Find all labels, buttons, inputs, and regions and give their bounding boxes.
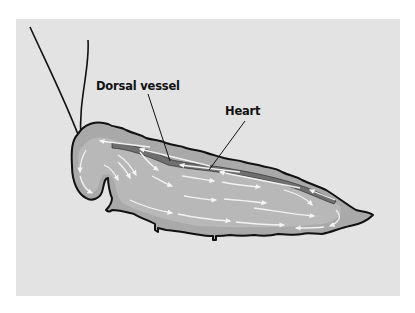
- insect-circulation-diagram: [0, 0, 415, 313]
- antennae: [30, 27, 88, 140]
- antenna-left: [30, 27, 79, 137]
- dorsal-vessel-label: Dorsal vessel: [96, 79, 180, 93]
- heart-label: Heart: [225, 104, 260, 118]
